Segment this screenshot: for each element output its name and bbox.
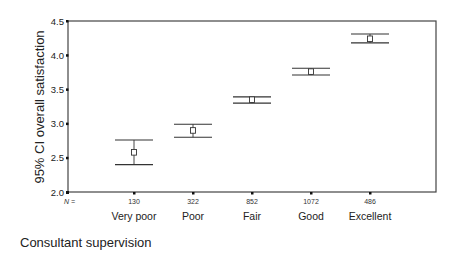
x-tick-mark: [310, 192, 313, 195]
y-tick-label: 4.5: [51, 16, 64, 27]
x-tick-mark: [133, 192, 136, 195]
error-bars: [115, 34, 389, 165]
category-label: Poor: [182, 210, 205, 222]
y-axis-title: 95% CI overall satisfaction: [32, 30, 47, 183]
x-tick-mark: [369, 192, 372, 195]
plot-frame: [68, 21, 436, 192]
category-label: Excellent: [349, 210, 392, 222]
x-axis: N =130Very poor322Poor852Fair1072Good486…: [64, 191, 391, 222]
origin-mark: [66, 191, 69, 194]
category-label: Good: [298, 210, 324, 222]
n-count: 130: [128, 198, 140, 205]
x-axis-title: Consultant supervision: [20, 235, 152, 250]
y-tick-label: 4.0: [51, 50, 64, 61]
y-tick-mark: [66, 20, 69, 23]
n-count: 322: [187, 198, 199, 205]
y-axis: 2.02.53.03.54.04.5: [51, 16, 69, 198]
y-tick-mark: [66, 88, 69, 91]
y-tick-label: 3.5: [51, 84, 64, 95]
error-bar-very-poor: [115, 140, 153, 165]
error-bar-good: [292, 68, 330, 75]
error-bar-chart: 2.02.53.03.54.04.5 N =130Very poor322Poo…: [0, 0, 459, 255]
error-bar-fair: [233, 97, 271, 103]
n-label: N =: [64, 198, 75, 205]
category-label: Fair: [243, 210, 262, 222]
y-tick-mark: [66, 157, 69, 160]
n-count: 852: [246, 198, 258, 205]
n-count: 486: [364, 198, 376, 205]
mean-marker: [191, 128, 196, 134]
plot-area: [68, 21, 436, 192]
mean-marker: [309, 69, 314, 75]
x-tick-mark: [251, 192, 254, 195]
error-bar-poor: [174, 124, 212, 137]
x-tick-mark: [192, 192, 195, 195]
error-bar-excellent: [351, 34, 389, 43]
y-tick-label: 2.5: [51, 152, 64, 163]
y-tick-label: 2.0: [51, 187, 64, 198]
mean-marker: [368, 36, 373, 42]
y-tick-label: 3.0: [51, 118, 64, 129]
mean-marker: [250, 97, 255, 103]
n-count: 1072: [303, 198, 319, 205]
category-label: Very poor: [112, 210, 157, 222]
y-tick-mark: [66, 54, 69, 57]
mean-marker: [132, 150, 137, 156]
y-tick-mark: [66, 123, 69, 126]
